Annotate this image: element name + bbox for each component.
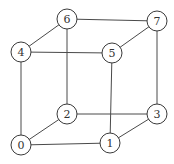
- node-0: 0: [11, 135, 31, 155]
- node-label: 0: [18, 139, 25, 152]
- node-7: 7: [147, 11, 167, 31]
- edges-group: [21, 19, 157, 145]
- node-5: 5: [102, 43, 122, 63]
- node-label: 7: [154, 15, 161, 28]
- node-label: 4: [18, 46, 25, 59]
- node-3: 3: [147, 104, 167, 124]
- edge-6-7: [67, 19, 157, 21]
- node-label: 5: [109, 47, 116, 60]
- node-4: 4: [11, 42, 31, 62]
- node-6: 6: [57, 9, 77, 29]
- edge-4-5: [21, 52, 112, 53]
- hypercube-diagram: 01234567: [0, 0, 174, 164]
- node-label: 3: [154, 108, 161, 121]
- node-label: 2: [64, 108, 71, 121]
- edge-0-1: [21, 143, 110, 145]
- node-1: 1: [100, 133, 120, 153]
- node-label: 6: [64, 13, 71, 26]
- node-2: 2: [57, 104, 77, 124]
- node-label: 1: [107, 137, 114, 150]
- edge-1-5: [110, 53, 112, 143]
